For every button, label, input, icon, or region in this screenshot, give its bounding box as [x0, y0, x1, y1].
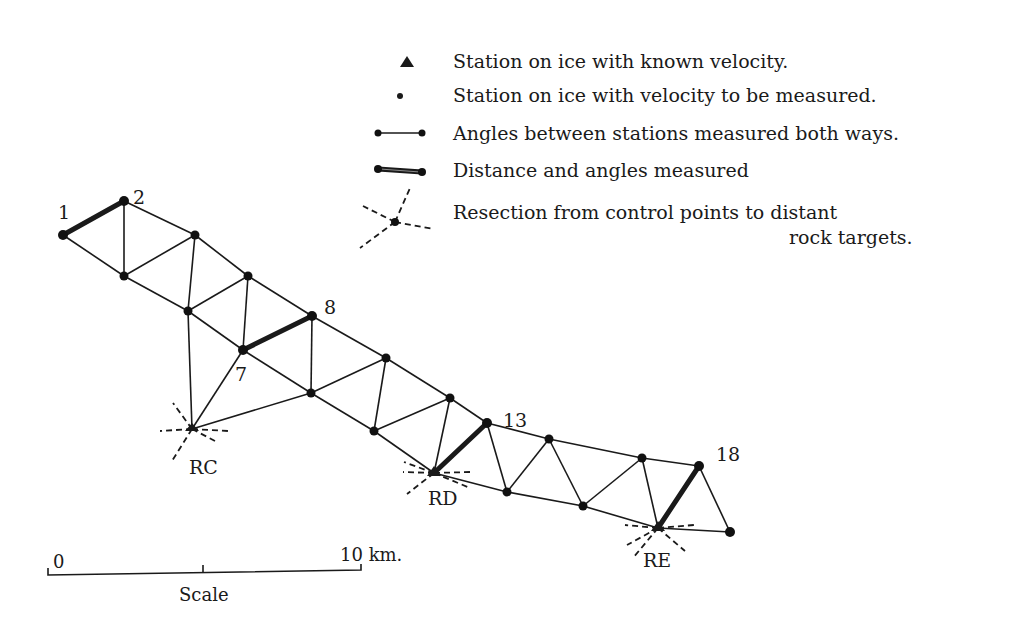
station-7 — [238, 345, 248, 355]
station-1 — [58, 230, 68, 240]
station — [725, 527, 735, 537]
network-edges — [63, 201, 730, 532]
station-nodes — [58, 196, 735, 537]
legend: Station on ice with known velocity. Stat… — [360, 50, 913, 248]
label-station-7: 7 — [235, 363, 247, 385]
station-18 — [694, 461, 704, 471]
station — [370, 427, 379, 436]
triangle-station-icon — [400, 56, 414, 67]
resection-icon — [360, 188, 434, 248]
legend-label-known-velocity: Station on ice with known velocity. — [453, 50, 788, 72]
scale-start-label: 0 — [53, 551, 64, 572]
scale-end-label: 10 km. — [340, 544, 402, 565]
survey-network-diagram: Station on ice with known velocity. Stat… — [0, 0, 1032, 637]
legend-label-resection-line1: Resection from control points to distant — [453, 201, 837, 223]
station — [184, 307, 193, 316]
station — [120, 272, 129, 281]
label-re: RE — [643, 549, 671, 571]
station — [545, 435, 554, 444]
station-8 — [307, 311, 317, 321]
station — [503, 488, 512, 497]
legend-label-resection-line2: rock targets. — [789, 226, 913, 248]
scale-bar: 0 10 km. Scale — [48, 544, 402, 605]
legend-label-distance-angles: Distance and angles measured — [453, 159, 749, 181]
station — [191, 231, 200, 240]
station-labels: 1 2 7 8 13 18 RC RD RE — [58, 186, 740, 571]
station-2 — [119, 196, 129, 206]
thin-line-icon — [375, 130, 426, 137]
label-station-18: 18 — [716, 443, 740, 465]
resection-rc — [160, 403, 228, 461]
station — [382, 354, 391, 363]
thick-line-icon — [374, 165, 426, 176]
station — [307, 389, 316, 398]
station — [638, 454, 647, 463]
label-station-1: 1 — [58, 201, 70, 223]
legend-label-velocity-to-measure: Station on ice with velocity to be measu… — [453, 84, 877, 106]
station — [244, 272, 253, 281]
label-rd: RD — [428, 487, 458, 509]
scale-caption: Scale — [179, 584, 229, 605]
legend-label-angles-both-ways: Angles between stations measured both wa… — [452, 122, 899, 144]
label-rc: RC — [189, 456, 218, 478]
station-13 — [482, 418, 492, 428]
station — [579, 502, 588, 511]
station — [446, 394, 455, 403]
label-station-2: 2 — [133, 186, 145, 208]
label-station-8: 8 — [324, 296, 336, 318]
label-station-13: 13 — [503, 409, 527, 431]
dot-station-icon — [397, 93, 403, 99]
